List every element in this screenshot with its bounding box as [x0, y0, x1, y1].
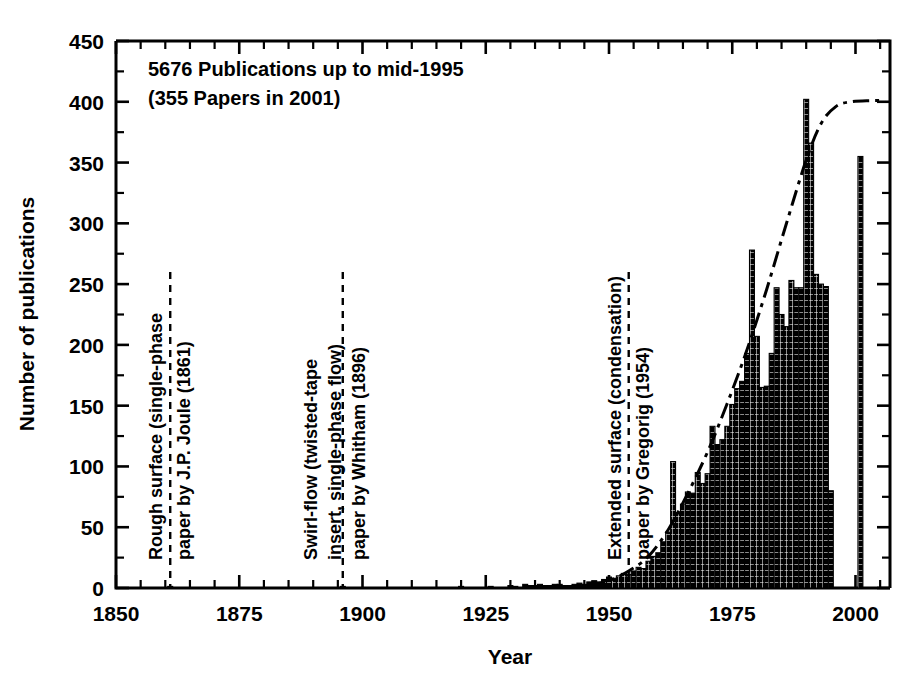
bar: [567, 586, 572, 588]
y-tick-label: 0: [92, 577, 104, 600]
bar: [690, 493, 695, 588]
bar: [651, 556, 656, 588]
chart-canvas: 050100150200250300350400450 185018751900…: [0, 0, 918, 692]
bar: [542, 586, 547, 588]
y-tick-label: 400: [69, 91, 104, 114]
bar: [340, 586, 345, 588]
y-axis-title: Number of publications: [15, 197, 38, 432]
bar: [799, 288, 804, 588]
bar: [631, 571, 636, 588]
y-tick-label: 300: [69, 212, 104, 235]
bar: [552, 584, 557, 588]
bar: [641, 569, 646, 588]
bar: [720, 440, 725, 588]
y-tick-label: 350: [69, 152, 104, 175]
bar: [582, 584, 587, 588]
bar: [557, 584, 562, 588]
bar: [562, 586, 567, 588]
bar: [794, 288, 799, 588]
bar: [779, 315, 784, 589]
bar: [572, 584, 577, 588]
y-tick-label: 150: [69, 395, 104, 418]
note-line-2: (355 Papers in 2001): [148, 87, 340, 109]
bar: [616, 576, 621, 588]
marker-label: paper by J.P. Joule (1861): [174, 341, 194, 560]
bar: [764, 386, 769, 588]
bar: [459, 586, 464, 588]
y-tick-label: 250: [69, 273, 104, 296]
y-tick-label: 200: [69, 334, 104, 357]
marker-label: Swirl-flow (twisted-tape: [301, 359, 321, 560]
bar: [735, 389, 740, 588]
bar: [656, 553, 661, 588]
marker-label: Rough surface (single-phase: [146, 313, 166, 560]
bar-series: [168, 99, 863, 588]
bar: [577, 583, 582, 588]
x-tick-label: 1850: [93, 602, 140, 625]
event-marker-lines: [170, 272, 628, 586]
bar: [661, 542, 666, 588]
x-tick-label: 1875: [216, 602, 263, 625]
x-tick-label: 2000: [832, 602, 879, 625]
bar: [508, 586, 513, 588]
note-line-1: 5676 Publications up to mid-1995: [148, 58, 464, 80]
marker-label: insert, single-phase flow): [325, 344, 345, 560]
y-tick-label: 50: [81, 516, 104, 539]
x-axis-title: Year: [488, 645, 532, 668]
publications-per-year-chart: 050100150200250300350400450 185018751900…: [0, 0, 918, 692]
bar: [814, 274, 819, 588]
bar: [730, 404, 735, 588]
x-tick-label: 1975: [709, 602, 756, 625]
y-tick-label: 100: [69, 455, 104, 478]
x-tick-label: 1900: [339, 602, 386, 625]
bar: [547, 586, 552, 588]
bar: [789, 280, 794, 588]
bar: [685, 492, 690, 588]
bar: [745, 353, 750, 588]
marker-label: paper by Gregorig (1954): [633, 347, 653, 560]
bar: [528, 586, 533, 588]
bar: [759, 387, 764, 588]
bar: [769, 353, 774, 588]
bar: [700, 483, 705, 588]
x-tick-label: 1925: [462, 602, 509, 625]
bar: [710, 426, 715, 588]
bar: [819, 284, 824, 588]
bar: [774, 288, 779, 588]
marker-label: Extended surface (condensation): [605, 276, 625, 560]
bar: [538, 584, 543, 588]
bar: [804, 99, 809, 588]
bar: [809, 143, 814, 588]
bar: [513, 586, 518, 588]
x-tick-label: 1950: [586, 602, 633, 625]
marker-label: paper by Whitham (1896): [349, 347, 369, 560]
y-tick-label: 450: [69, 30, 104, 53]
bar: [523, 584, 528, 588]
bar: [858, 156, 863, 588]
bar: [488, 586, 493, 588]
bar: [740, 381, 745, 588]
bar: [636, 567, 641, 588]
bar: [725, 426, 730, 588]
bar: [533, 586, 538, 588]
bar: [680, 504, 685, 588]
bar: [705, 474, 710, 588]
bar: [168, 586, 173, 588]
bar: [828, 491, 833, 588]
y-axis-tick-labels: 050100150200250300350400450: [69, 30, 104, 600]
bar: [784, 327, 789, 588]
bar: [823, 287, 828, 588]
event-marker-labels: Rough surface (single-phasepaper by J.P.…: [146, 276, 652, 560]
bar: [749, 250, 754, 588]
bar: [695, 473, 700, 588]
bar: [754, 336, 759, 588]
x-axis-tick-labels: 1850187519001925195019752000: [93, 602, 879, 625]
bar: [646, 561, 651, 588]
bar: [715, 445, 720, 588]
bar: [676, 513, 681, 588]
bar: [666, 532, 671, 588]
